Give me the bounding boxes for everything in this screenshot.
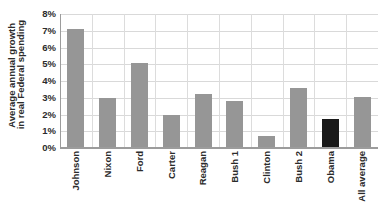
bar-nixon (99, 98, 116, 148)
y-axis-tick-label: 7% (42, 26, 56, 36)
y-axis-title: Average annual growth in real Federal sp… (0, 0, 32, 150)
bar-carter (163, 115, 180, 149)
y-axis-title-line-2: in real Federal spending (16, 20, 26, 129)
bar-bush-1 (226, 101, 243, 148)
x-axis-tick-label-obama: Obama (323, 151, 337, 183)
x-axis-tick-label-text: All average (357, 151, 367, 202)
y-axis-tick-label: 0% (42, 143, 56, 153)
x-axis-tick-label-text: Obama (326, 151, 336, 183)
y-axis-tick-label: 2% (42, 110, 56, 120)
bar-all-average (354, 97, 371, 148)
bar-johnson (67, 29, 84, 148)
bar-bush-2 (290, 88, 307, 148)
bar-reagan (195, 94, 212, 148)
x-axis-tick-label-text: Johnson (71, 151, 81, 191)
bar-ford (131, 63, 148, 148)
x-axis-tick-label-bush-2: Bush 2 (292, 151, 306, 183)
x-axis-tick-label-reagan: Reagan (196, 151, 210, 185)
y-axis-tick-label: 3% (42, 93, 56, 103)
x-axis-tick-labels: JohnsonNixonFordCarterReaganBush 1Clinto… (60, 149, 378, 212)
x-axis-line (60, 147, 378, 148)
y-axis-tick-label: 8% (42, 9, 56, 19)
x-axis-tick-label-text: Bush 2 (294, 151, 304, 183)
x-axis-tick-label-text: Reagan (198, 151, 208, 185)
x-axis-tick-label-ford: Ford (133, 151, 147, 172)
bar-obama (322, 119, 339, 148)
x-axis-tick-label-text: Carter (167, 151, 177, 179)
x-axis-tick-label-clinton: Clinton (260, 151, 274, 184)
y-axis-tick-labels: 0%1%2%3%4%5%6%7%8% (30, 8, 58, 154)
x-axis-tick-label-text: Bush 1 (230, 151, 240, 183)
x-axis-tick-label-all-average: All average (355, 151, 369, 202)
x-axis-tick-label-johnson: Johnson (69, 151, 83, 191)
x-axis-tick-label-text: Ford (135, 151, 145, 172)
x-axis-tick-label-text: Clinton (262, 151, 272, 184)
x-axis-tick-label-text: Nixon (103, 151, 113, 177)
y-axis-tick-label: 6% (42, 43, 56, 53)
x-axis-tick-label-bush-1: Bush 1 (228, 151, 242, 183)
y-axis-tick-label: 4% (42, 76, 56, 86)
y-axis-tick-label: 1% (42, 127, 56, 137)
x-axis-tick-label-nixon: Nixon (101, 151, 115, 177)
bars-layer (60, 14, 378, 148)
bar-chart-figure: Average annual growth in real Federal sp… (0, 0, 383, 212)
y-axis-tick-label: 5% (42, 60, 56, 70)
x-axis-tick-label-carter: Carter (164, 151, 178, 179)
plot-area (60, 14, 378, 148)
y-axis-line (60, 14, 61, 148)
